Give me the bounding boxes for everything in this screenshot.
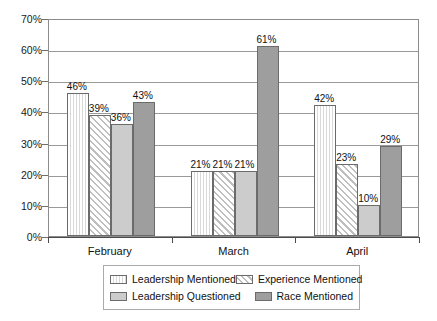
x-category-label: April bbox=[346, 245, 368, 257]
x-tick-mark bbox=[419, 237, 420, 243]
legend: Leadership Mentioned Experience Mentione… bbox=[103, 265, 360, 310]
x-category-label: February bbox=[88, 245, 132, 257]
bar bbox=[191, 171, 213, 236]
legend-item-leadership-mentioned[interactable]: Leadership Mentioned bbox=[110, 274, 236, 285]
legend-swatch-icon bbox=[110, 275, 127, 284]
bar bbox=[89, 115, 111, 236]
legend-row-1: Leadership Mentioned Experience Mentione… bbox=[110, 271, 353, 288]
legend-swatch-icon bbox=[255, 292, 272, 301]
legend-label: Experience Mentioned bbox=[258, 274, 362, 285]
y-tick-label: 10% bbox=[6, 201, 42, 212]
bar bbox=[257, 46, 279, 236]
bar-value-label: 23% bbox=[336, 152, 356, 163]
legend-item-race-mentioned[interactable]: Race Mentioned bbox=[255, 291, 353, 302]
x-category-label: March bbox=[218, 245, 249, 257]
y-tick-label: 50% bbox=[6, 76, 42, 87]
y-tick-label: 40% bbox=[6, 107, 42, 118]
legend-label: Race Mentioned bbox=[277, 291, 353, 302]
bar-chart: 0%10%20%30%40%50%60%70% 46%39%36%43%21%2… bbox=[0, 0, 437, 321]
x-tick-mark bbox=[48, 237, 49, 243]
bar bbox=[235, 171, 257, 236]
bar-value-label: 10% bbox=[358, 193, 378, 204]
gridline bbox=[49, 51, 418, 52]
legend-row-2: Leadership Questioned Race Mentioned bbox=[110, 288, 353, 305]
legend-swatch-icon bbox=[236, 275, 253, 284]
bar-value-label: 21% bbox=[234, 159, 254, 170]
legend-label: Leadership Questioned bbox=[132, 291, 241, 302]
bar-value-label: 36% bbox=[111, 112, 131, 123]
y-tick-label: 70% bbox=[6, 14, 42, 25]
bar-value-label: 21% bbox=[190, 159, 210, 170]
y-tick-label: 0% bbox=[6, 232, 42, 243]
x-axis-line bbox=[48, 237, 419, 238]
y-tick-label: 20% bbox=[6, 169, 42, 180]
y-tick-label: 30% bbox=[6, 138, 42, 149]
y-tick-label: 60% bbox=[6, 45, 42, 56]
bar bbox=[213, 171, 235, 236]
bar bbox=[336, 164, 358, 236]
bar-value-label: 46% bbox=[67, 81, 87, 92]
bar bbox=[380, 146, 402, 236]
bar bbox=[67, 93, 89, 236]
x-tick-mark bbox=[172, 237, 173, 243]
legend-label: Leadership Mentioned bbox=[132, 274, 236, 285]
bar bbox=[111, 124, 133, 236]
bar-value-label: 39% bbox=[89, 103, 109, 114]
bar-value-label: 21% bbox=[212, 159, 232, 170]
bar bbox=[133, 102, 155, 236]
bar-value-label: 43% bbox=[133, 90, 153, 101]
gridline bbox=[49, 82, 418, 83]
bar bbox=[314, 105, 336, 236]
bar-value-label: 61% bbox=[256, 34, 276, 45]
legend-swatch-icon bbox=[110, 292, 127, 301]
bar-value-label: 42% bbox=[314, 93, 334, 104]
legend-item-experience-mentioned[interactable]: Experience Mentioned bbox=[236, 274, 362, 285]
x-tick-mark bbox=[295, 237, 296, 243]
plot-area bbox=[48, 19, 419, 237]
bar-value-label: 29% bbox=[380, 134, 400, 145]
bar bbox=[358, 205, 380, 236]
legend-item-leadership-questioned[interactable]: Leadership Questioned bbox=[110, 291, 255, 302]
